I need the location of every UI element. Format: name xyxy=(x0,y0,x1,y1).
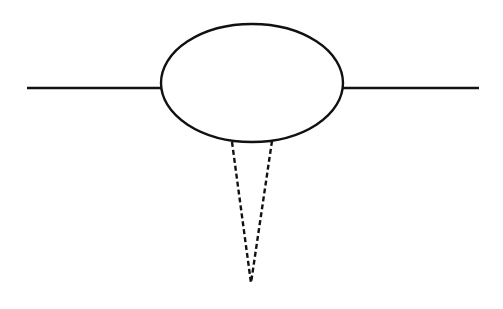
background xyxy=(0,0,503,309)
diagram-canvas xyxy=(0,0,503,309)
